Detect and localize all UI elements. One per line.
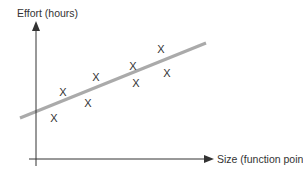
data-point-x-marker: X <box>129 60 137 72</box>
data-point-x-marker: X <box>157 43 165 55</box>
trend-line <box>20 43 206 118</box>
x-axis-label: Size (function points) <box>217 153 303 165</box>
effort-size-diagram: Effort (hours) Size (function points) XX… <box>0 0 303 179</box>
data-point-x-marker: X <box>163 67 171 79</box>
y-axis-arrow-icon <box>32 21 40 31</box>
data-point-x-marker: X <box>92 71 100 83</box>
data-point-x-marker: X <box>84 97 92 109</box>
y-axis-label: Effort (hours) <box>17 7 78 19</box>
data-point-x-marker: X <box>132 77 140 89</box>
data-points: XXXXXXXX <box>50 43 171 124</box>
data-point-x-marker: X <box>50 112 58 124</box>
x-axis-arrow-icon <box>204 155 214 163</box>
data-point-x-marker: X <box>59 86 67 98</box>
